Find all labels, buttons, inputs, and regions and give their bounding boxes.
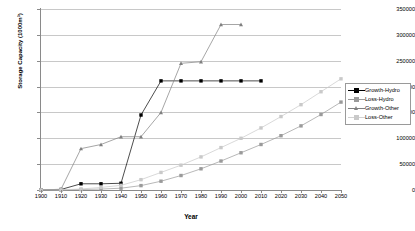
- data-point: [239, 151, 242, 154]
- data-point: [199, 167, 202, 170]
- series-growth-other: [39, 23, 243, 192]
- series-loss-other: [39, 77, 342, 192]
- x-axis-tick-mark: [41, 190, 42, 193]
- legend-label: Growth-Other: [365, 104, 399, 113]
- x-axis-title: Year: [41, 213, 341, 220]
- data-point: [299, 124, 302, 127]
- x-axis-tick-mark: [121, 190, 122, 193]
- legend-item-growth-hydro[interactable]: Growth-Hydro: [348, 86, 408, 95]
- data-point: [319, 90, 322, 93]
- legend-item-loss-other[interactable]: Loss-Other: [348, 113, 408, 122]
- data-point: [139, 184, 142, 187]
- data-point: [239, 79, 242, 82]
- data-point: [259, 143, 262, 146]
- series-layer: [41, 9, 341, 190]
- legend-marker-square-icon: [348, 113, 365, 122]
- legend-marker-square-icon: [348, 86, 365, 95]
- data-point: [159, 171, 162, 174]
- data-point: [299, 103, 302, 106]
- data-point: [179, 163, 182, 166]
- x-axis-tick-label: 2050: [326, 193, 356, 199]
- x-axis-tick-mark: [321, 190, 322, 193]
- y-axis-tick-label: 0: [379, 187, 415, 193]
- data-point: [199, 79, 202, 82]
- data-point: [179, 79, 182, 82]
- x-axis-tick-mark: [101, 190, 102, 193]
- legend-marker-square-icon: [348, 95, 365, 104]
- y-axis-tick-label: 300000: [379, 32, 415, 38]
- y-axis-tick-label: 350000: [379, 6, 415, 12]
- y-axis-tick-label: 100000: [379, 135, 415, 141]
- data-point: [239, 137, 242, 140]
- x-axis-tick-mark: [301, 190, 302, 193]
- x-axis-tick-mark: [261, 190, 262, 193]
- data-point: [259, 79, 262, 82]
- x-axis-tick-mark: [161, 190, 162, 193]
- data-point: [79, 182, 82, 185]
- data-point: [139, 178, 142, 181]
- data-point: [99, 142, 103, 146]
- data-point: [339, 77, 342, 80]
- data-point: [279, 134, 282, 137]
- data-point: [119, 184, 122, 187]
- data-point: [139, 113, 142, 116]
- series-loss-hydro: [39, 100, 342, 191]
- chart-container: Storage Capacity (1000m³) 05000010000015…: [0, 0, 415, 231]
- legend-marker-triangle-icon: [348, 104, 365, 113]
- legend-label: Loss-Other: [365, 113, 393, 122]
- legend-item-growth-other[interactable]: Growth-Other: [348, 104, 408, 113]
- x-axis-tick-mark: [241, 190, 242, 193]
- chart-legend: Growth-Hydro Loss-Hydro Growth-Other Los…: [345, 83, 411, 125]
- data-point: [159, 79, 162, 82]
- series-line: [41, 79, 341, 190]
- data-point: [99, 182, 102, 185]
- x-axis-tick-mark: [281, 190, 282, 193]
- data-point: [179, 174, 182, 177]
- data-point: [219, 159, 222, 162]
- data-point: [259, 126, 262, 129]
- y-axis-tick-label: 250000: [379, 58, 415, 64]
- data-point: [219, 79, 222, 82]
- series-line: [41, 102, 341, 190]
- data-point: [99, 186, 102, 189]
- x-axis-tick-mark: [181, 190, 182, 193]
- legend-label: Loss-Hydro: [365, 95, 394, 104]
- data-point: [279, 115, 282, 118]
- y-axis-tick-label: 50000: [379, 161, 415, 167]
- x-axis-tick-mark: [221, 190, 222, 193]
- x-axis-tick-mark: [81, 190, 82, 193]
- x-axis-tick-mark: [201, 190, 202, 193]
- x-axis-tick-mark: [141, 190, 142, 193]
- data-point: [199, 155, 202, 158]
- series-growth-hydro: [39, 79, 262, 192]
- data-point: [319, 113, 322, 116]
- legend-item-loss-hydro[interactable]: Loss-Hydro: [348, 95, 408, 104]
- gridline: [41, 190, 341, 191]
- data-point: [339, 100, 342, 103]
- legend-label: Growth-Hydro: [365, 86, 400, 95]
- series-line: [41, 81, 261, 190]
- x-axis-tick-mark: [61, 190, 62, 193]
- y-axis-title: Storage Capacity (1000m³): [17, 0, 23, 121]
- data-point: [159, 180, 162, 183]
- plot-area: [41, 9, 341, 190]
- data-point: [219, 146, 222, 149]
- data-point: [159, 110, 163, 114]
- x-axis-tick-mark: [341, 190, 342, 193]
